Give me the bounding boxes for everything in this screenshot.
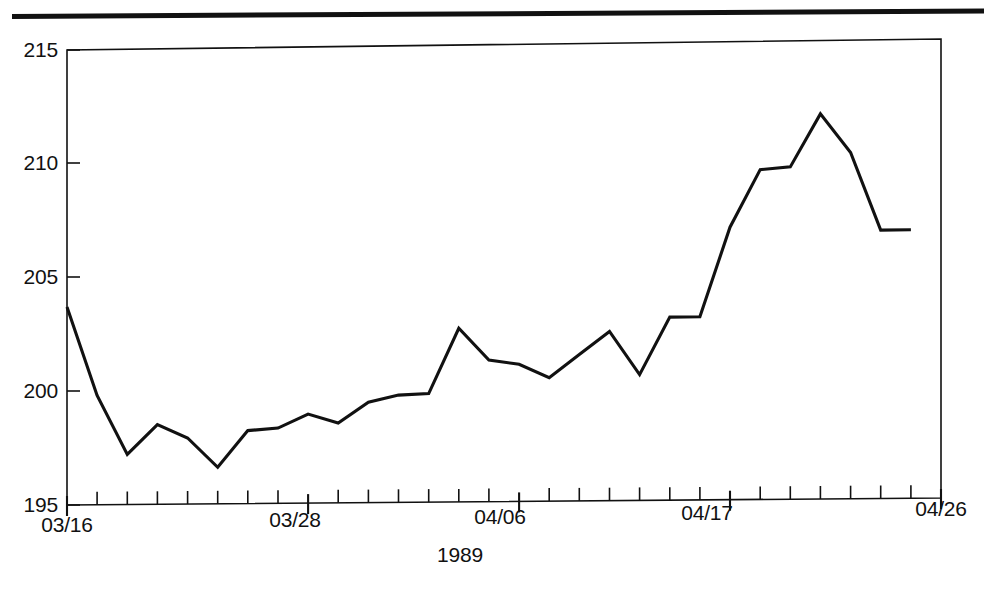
x-tick-label-0426: 04/26: [896, 497, 986, 521]
line-chart: 215 210 205 200 195 03/16 03/28 04/06 04…: [0, 0, 995, 604]
y-tick-marks: [67, 50, 80, 505]
x-tick-label-0417: 04/17: [662, 501, 752, 525]
y-tick-label-200: 200: [4, 379, 58, 403]
x-axis-title: 1989: [400, 543, 520, 567]
y-tick-label-205: 205: [4, 265, 58, 289]
y-tick-label-210: 210: [4, 151, 58, 175]
plot-frame: [67, 39, 941, 505]
page-root: 215 210 205 200 195 03/16 03/28 04/06 04…: [0, 0, 995, 604]
x-tick-label-0316: 03/16: [22, 513, 112, 537]
data-series-line: [67, 114, 911, 467]
y-tick-label-215: 215: [4, 38, 58, 62]
x-tick-label-0406: 04/06: [455, 505, 545, 529]
x-tick-label-0328: 03/28: [250, 508, 340, 532]
